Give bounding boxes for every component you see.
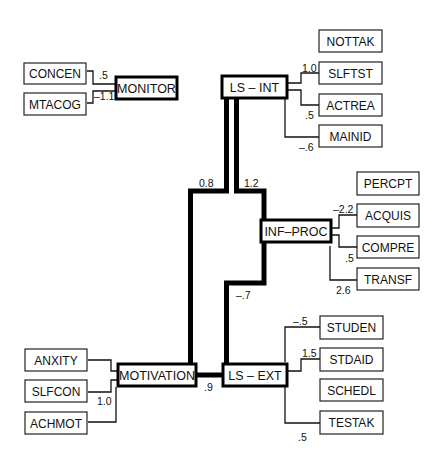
indicator-anxity-label: ANXITY [34, 354, 77, 368]
line-anxity [88, 360, 118, 371]
line-mainid [285, 98, 319, 137]
indicator-achmot-label: ACHMOT [30, 417, 83, 431]
line-testak [285, 387, 320, 423]
loading-actrea: .5 [305, 109, 314, 121]
line-slftst [288, 73, 319, 83]
loading-stdaid: 1.5 [302, 347, 317, 359]
indicator-slfcon: SLFCON [25, 380, 87, 402]
indicator-schedl-label: SCHEDL [327, 384, 376, 398]
latent-monitor: MONITOR [116, 77, 177, 99]
latent-ls-ext-label: LS – EXT [228, 369, 282, 383]
indicator-anxity: ANXITY [25, 349, 87, 371]
indicator-slftst-label: SLFTST [328, 67, 373, 81]
indicator-slftst: SLFTST [319, 62, 382, 84]
indicator-percpt-label: PERCPT [364, 177, 413, 191]
path-ls-int-motivation [191, 98, 227, 364]
coef-inf-proc-ls-ext: –.7 [236, 289, 251, 301]
indicator-stdaid: STDAID [320, 348, 383, 371]
loading-slftst: 1.0 [302, 62, 317, 74]
latent-inf-proc: INF–PROC [261, 220, 331, 242]
indicator-schedl: SCHEDL [320, 379, 383, 401]
coef-ls-int-motivation: 0.8 [199, 177, 214, 189]
indicator-transf-label: TRANSF [364, 273, 412, 287]
coef-ls-int-inf-proc: 1.2 [244, 177, 259, 189]
line-compre [332, 235, 357, 247]
line-stdaid [288, 359, 320, 371]
indicator-acquis: ACQUIS [357, 204, 419, 227]
line-acquis [332, 215, 357, 228]
latent-monitor-label: MONITOR [117, 82, 176, 96]
loading-acquis: –2.2 [333, 203, 354, 215]
path-ls-int-inf-proc [237, 98, 265, 220]
indicator-mtacog: MTACOG [24, 93, 86, 115]
indicator-acquis-label: ACQUIS [365, 209, 411, 223]
indicator-mainid-label: MAINID [330, 130, 372, 144]
indicator-testak: TESTAK [320, 411, 383, 434]
latent-inf-proc-label: INF–PROC [264, 225, 327, 239]
latent-ls-ext: LS – EXT [223, 364, 287, 386]
line-actrea [288, 90, 319, 105]
indicator-testak-label: TESTAK [329, 416, 375, 430]
indicator-percpt: PERCPT [357, 172, 419, 195]
indicator-concen: CONCEN [24, 63, 86, 84]
loading-mainid: –.6 [299, 141, 314, 153]
loading-transf: 2.6 [336, 284, 351, 296]
latent-motivation: MOTIVATION [118, 364, 196, 386]
path-inf-proc-ls-ext [227, 242, 265, 364]
indicator-transf: TRANSF [357, 268, 419, 290]
indicator-mainid: MAINID [319, 125, 382, 147]
indicator-studen: STUDEN [320, 316, 383, 339]
indicator-actrea: ACTREA [319, 94, 382, 116]
loading-mtacog: –1.1 [94, 90, 115, 102]
indicator-mtacog-label: MTACOG [29, 98, 81, 112]
indicator-compre: COMPRE [357, 236, 419, 258]
indicator-compre-label: COMPRE [362, 241, 415, 255]
path-diagram: MONITOR LS – INT INF–PROC MOTIVATION LS … [0, 0, 442, 466]
indicator-studen-label: STUDEN [327, 321, 376, 335]
loading-slfcon: 1.0 [97, 395, 112, 407]
latent-motivation-label: MOTIVATION [119, 369, 195, 383]
latent-ls-int-label: LS – INT [230, 81, 280, 95]
loading-testak: .5 [298, 431, 307, 443]
loading-concen: .5 [99, 69, 108, 81]
latent-ls-int: LS – INT [222, 76, 287, 98]
line-slfcon [88, 380, 118, 392]
indicator-nottak-label: NOTTAK [327, 35, 375, 49]
loading-studen: –.5 [293, 315, 308, 327]
indicator-nottak: NOTTAK [319, 30, 382, 52]
indicator-achmot: ACHMOT [25, 412, 87, 434]
indicator-actrea-label: ACTREA [326, 99, 375, 113]
indicator-slfcon-label: SLFCON [32, 385, 81, 399]
loading-compre: .5 [345, 252, 354, 264]
coef-motivation-ls-ext: .9 [204, 381, 213, 393]
indicator-concen-label: CONCEN [29, 67, 81, 81]
indicator-stdaid-label: STDAID [329, 353, 373, 367]
